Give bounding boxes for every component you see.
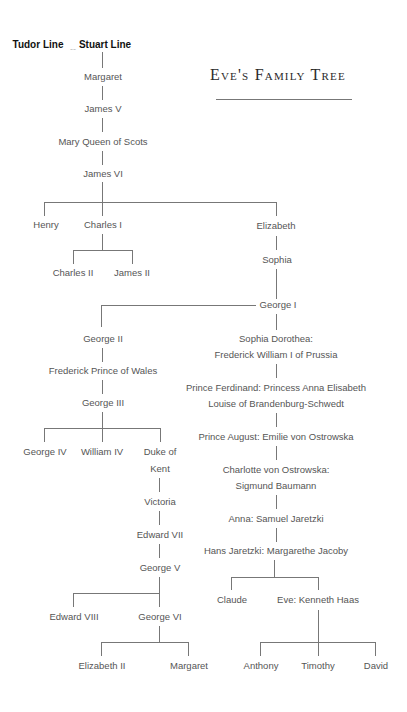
connector xyxy=(159,511,160,525)
person-james-vi: James VI xyxy=(83,168,123,180)
person-eve: Eve: Kenneth Haas xyxy=(277,594,359,606)
connector xyxy=(276,495,277,509)
connector xyxy=(375,642,376,656)
connector xyxy=(102,412,103,428)
person-anthony: Anthony xyxy=(244,660,279,672)
connector xyxy=(102,380,103,394)
connector xyxy=(102,86,103,100)
connector xyxy=(44,428,45,442)
connector xyxy=(159,478,160,492)
connector xyxy=(73,593,74,607)
connector xyxy=(160,428,161,442)
person-george-v: George V xyxy=(140,562,181,574)
connector xyxy=(102,151,103,165)
person-edward-vii: Edward VII xyxy=(137,529,183,541)
person-prince-ferdinand-line2: Louise of Brandenburg-Schwedt xyxy=(208,398,344,410)
person-william-iv: William IV xyxy=(81,446,123,458)
connector xyxy=(276,202,277,216)
connector xyxy=(231,577,232,590)
person-victoria: Victoria xyxy=(144,496,176,508)
connector xyxy=(159,577,160,593)
person-david: David xyxy=(364,660,388,672)
person-prince-august: Prince August: Emilie von Ostrowska xyxy=(198,431,353,443)
person-henry: Henry xyxy=(33,219,58,231)
connector xyxy=(101,642,189,643)
connector xyxy=(102,348,103,362)
person-james-v: James V xyxy=(85,103,122,115)
connector xyxy=(159,593,160,607)
connector xyxy=(101,642,102,656)
person-prince-ferdinand-line1: Prince Ferdinand: Princess Anna Elisabet… xyxy=(186,382,366,394)
connector xyxy=(260,642,261,656)
connector xyxy=(102,234,103,250)
connector xyxy=(276,269,277,299)
connector xyxy=(188,642,189,656)
person-duke-of-kent-line1: Duke of xyxy=(144,446,177,458)
connector xyxy=(276,314,277,330)
connector xyxy=(101,305,256,306)
connector xyxy=(102,182,103,202)
connector xyxy=(276,446,277,460)
person-george-ii: George II xyxy=(83,333,123,345)
connector xyxy=(44,202,277,203)
person-george-vi: George VI xyxy=(138,611,181,623)
person-timothy: Timothy xyxy=(301,660,334,672)
connector xyxy=(276,364,277,378)
person-margaret-rose: Margaret xyxy=(170,660,208,672)
connector xyxy=(132,250,133,264)
person-margaret: Margaret xyxy=(84,71,122,83)
person-edward-viii: Edward VIII xyxy=(49,611,98,623)
title-rule xyxy=(216,99,352,100)
connector xyxy=(318,642,319,656)
person-claude: Claude xyxy=(217,594,247,606)
person-sophia-dorothea-line2: Frederick William I of Prussia xyxy=(215,349,338,361)
connector xyxy=(276,413,277,427)
connector xyxy=(73,250,133,251)
person-duke-of-kent-line2: Kent xyxy=(150,463,170,475)
connector xyxy=(276,236,277,250)
connector xyxy=(159,626,160,642)
connector xyxy=(231,577,319,578)
person-charlotte-line1: Charlotte von Ostrowska: xyxy=(223,464,330,476)
connector xyxy=(102,118,103,132)
connector xyxy=(274,560,275,577)
person-elizabeth: Elizabeth xyxy=(256,220,295,232)
person-charles-i: Charles I xyxy=(84,219,122,231)
connector xyxy=(102,428,103,442)
person-anna: Anna: Samuel Jaretzki xyxy=(228,513,323,525)
connector xyxy=(276,528,277,542)
person-sophia-dorothea-line1: Sophia Dorothea: xyxy=(239,333,313,345)
person-george-i: George I xyxy=(260,299,297,311)
person-george-iv: George IV xyxy=(23,446,66,458)
tudor-line-label: Tudor Line xyxy=(13,39,64,51)
connector xyxy=(102,52,103,68)
connector xyxy=(102,202,103,216)
person-charles-ii: Charles II xyxy=(53,267,94,279)
person-mary-queen-of-scots: Mary Queen of Scots xyxy=(58,136,147,148)
person-elizabeth-ii: Elizabeth II xyxy=(79,660,126,672)
person-george-iii: George III xyxy=(82,397,124,409)
connector xyxy=(44,202,45,216)
person-james-ii: James II xyxy=(114,267,150,279)
person-frederick-prince-of-wales: Frederick Prince of Wales xyxy=(49,365,157,377)
stuart-line-label: Stuart Line xyxy=(79,39,131,51)
person-charlotte-line2: Sigmund Baumann xyxy=(236,480,317,492)
person-sophia: Sophia xyxy=(262,254,292,266)
connector xyxy=(318,610,319,642)
connector xyxy=(318,577,319,590)
connector xyxy=(73,250,74,264)
connector xyxy=(101,305,102,327)
line-separator: -- xyxy=(70,44,76,54)
tree-title: Eve's Family Tree xyxy=(210,66,346,84)
connector xyxy=(73,593,160,594)
person-hans: Hans Jaretzki: Margarethe Jacoby xyxy=(204,545,348,557)
connector xyxy=(159,544,160,558)
